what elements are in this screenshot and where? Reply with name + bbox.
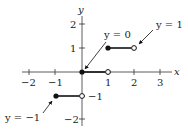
closed-point — [79, 69, 84, 74]
y-tick-label: 1 — [70, 43, 76, 54]
x-tick-label: 3 — [157, 77, 163, 88]
annotation-y0: y = 0 — [103, 29, 131, 40]
annotation-ym1: y = −1 — [4, 112, 40, 123]
open-point-label: −1 — [88, 91, 103, 102]
open-point — [106, 70, 111, 75]
x-axis-label: x — [174, 66, 180, 77]
x-tick-label: 2 — [131, 77, 137, 88]
open-point — [132, 46, 137, 51]
x-tick-label: −2 — [21, 77, 36, 88]
arrow-y1 — [139, 30, 153, 44]
y-axis-label: y — [77, 4, 84, 15]
y-tick-label: 2 — [70, 19, 76, 30]
closed-point — [53, 93, 58, 98]
arrow-ym1 — [43, 101, 52, 113]
annotation-y1: y = 1 — [155, 19, 183, 30]
arrow-y0 — [85, 42, 106, 69]
closed-point — [105, 45, 110, 50]
x-tick-label: −1 — [48, 77, 63, 88]
open-point — [80, 94, 85, 99]
step-function-chart: −2 −1 1 2 3 2 1 −2 x y −1 y = 0 y = 1 y … — [0, 0, 188, 136]
x-tick-label: 1 — [105, 77, 111, 88]
y-tick-label: −2 — [64, 114, 79, 125]
